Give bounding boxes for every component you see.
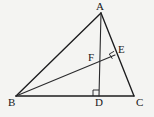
right-angle-marks	[93, 51, 114, 96]
vertex-label-F: F	[88, 52, 94, 63]
segment-AD-altitude	[99, 13, 101, 96]
geometry-canvas	[0, 0, 154, 117]
vertex-label-A: A	[96, 1, 104, 12]
vertex-label-C: C	[136, 97, 143, 108]
vertex-label-E: E	[118, 44, 125, 55]
vertex-label-B: B	[8, 97, 15, 108]
vertex-label-D: D	[95, 97, 103, 108]
segment-BE-altitude	[16, 55, 115, 96]
geometry-figure: A B C D E F	[0, 0, 154, 117]
right-angle-at-E-icon	[109, 51, 114, 59]
cevian-segments	[16, 13, 115, 96]
triangle-edges	[16, 13, 134, 96]
